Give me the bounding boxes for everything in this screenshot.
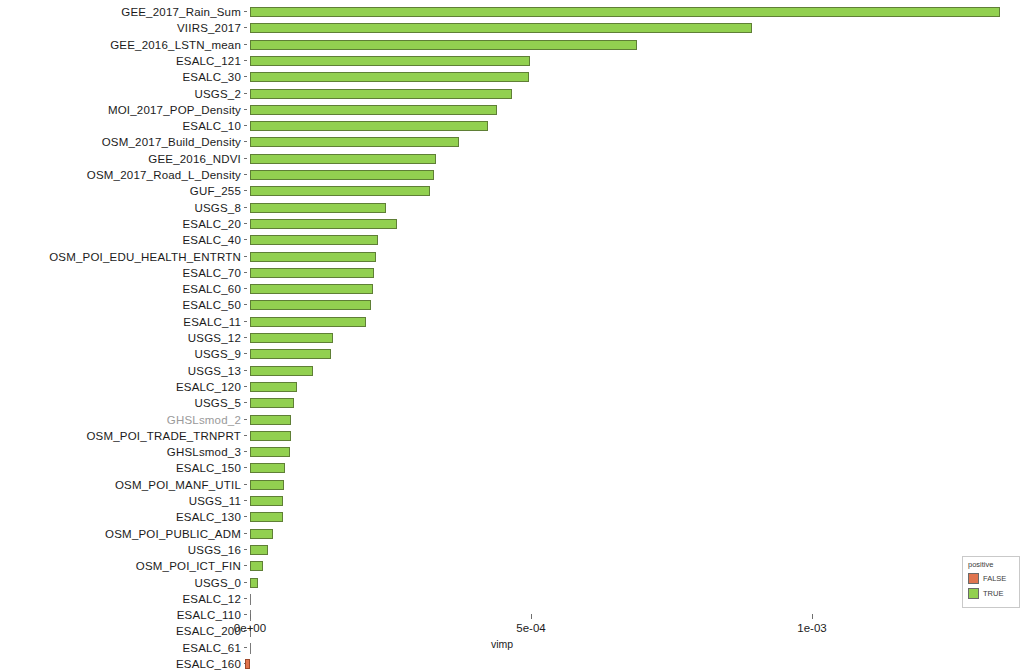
legend-item[interactable]: TRUE: [968, 587, 1014, 600]
bar-row: USGS_0: [0, 575, 1004, 591]
y-axis-tick: [244, 549, 247, 550]
y-axis-tick: [244, 174, 247, 175]
y-axis-tick: [244, 272, 247, 273]
legend: positive FALSETRUE: [962, 556, 1020, 608]
bar: [250, 284, 373, 294]
bar-row: ESALC_11: [0, 314, 1004, 330]
bar: [250, 72, 529, 82]
y-axis-tick: [244, 484, 247, 485]
y-axis-label: OSM_POI_PUBLIC_ADM: [105, 526, 241, 542]
bar-row: ESALC_50: [0, 297, 1004, 313]
y-axis-tick: [244, 353, 247, 354]
y-axis-tick: [244, 321, 247, 322]
bar: [250, 300, 371, 310]
x-axis-tick-label: 5e-04: [516, 622, 545, 634]
bar: [250, 529, 273, 539]
bar: [250, 203, 386, 213]
y-axis-tick: [244, 370, 247, 371]
y-axis-tick: [244, 27, 247, 28]
bar: [250, 333, 333, 343]
bar-row: ESALC_70: [0, 265, 1004, 281]
y-axis-tick: [244, 93, 247, 94]
y-axis-label: OSM_POI_TRADE_TRNPRT: [86, 428, 241, 444]
bar-row: ESALC_20: [0, 216, 1004, 232]
y-axis-label: GHSLsmod_2: [167, 412, 241, 428]
y-axis-label: USGS_16: [188, 542, 241, 558]
y-axis-tick: [244, 386, 247, 387]
bar: [250, 235, 378, 245]
bar: [250, 121, 488, 131]
bar: [250, 268, 374, 278]
bar: [250, 186, 430, 196]
bar: [250, 447, 290, 457]
y-axis-label: USGS_0: [194, 575, 241, 591]
bar-row: GEE_2016_NDVI: [0, 151, 1004, 167]
bar: [250, 545, 268, 555]
y-axis-label: ESALC_150: [176, 460, 241, 476]
bar-row: ESALC_150: [0, 460, 1004, 476]
bar-row: ESALC_120: [0, 379, 1004, 395]
y-axis-label: USGS_11: [189, 493, 241, 509]
bar: [250, 382, 297, 392]
y-axis-tick: [244, 288, 247, 289]
y-axis-tick: [244, 500, 247, 501]
x-axis-tick: [812, 614, 813, 619]
bar: [250, 154, 436, 164]
x-axis-tick: [531, 614, 532, 619]
y-axis-label: ESALC_121: [176, 53, 241, 69]
bar: [250, 415, 291, 425]
bar-row: OSM_POI_ICT_FIN: [0, 558, 1004, 574]
bar: [250, 7, 1000, 17]
y-axis-label: GUF_255: [190, 183, 241, 199]
y-axis-label: ESALC_20: [183, 216, 242, 232]
legend-label: TRUE: [983, 588, 1003, 599]
legend-swatch-icon: [968, 573, 979, 584]
bar: [250, 40, 637, 50]
y-axis-label: ESALC_10: [183, 118, 242, 134]
bar-row: ESALC_121: [0, 53, 1004, 69]
bar: [250, 137, 459, 147]
y-axis-tick: [244, 256, 247, 257]
y-axis-label: USGS_12: [188, 330, 241, 346]
bar-row: GHSLsmod_3: [0, 444, 1004, 460]
y-axis-tick: [244, 582, 247, 583]
bar-row: GEE_2017_Rain_Sum: [0, 4, 1004, 20]
bar-row: ESALC_130: [0, 509, 1004, 525]
y-axis-label: OSM_POI_EDU_HEALTH_ENTRTN: [49, 249, 241, 265]
bar: [250, 170, 434, 180]
bar-row: USGS_9: [0, 346, 1004, 362]
x-axis-tick-label: 1e-03: [797, 622, 826, 634]
y-axis-label: GEE_2016_NDVI: [148, 151, 241, 167]
y-axis-tick: [244, 516, 247, 517]
x-axis-tick-label: 0e+00: [234, 622, 266, 634]
bar-row: OSM_POI_EDU_HEALTH_ENTRTN: [0, 249, 1004, 265]
x-axis-title: vimp: [0, 638, 1004, 650]
y-axis-tick: [244, 304, 247, 305]
y-axis-tick: [244, 419, 247, 420]
legend-entries: FALSETRUE: [968, 572, 1014, 600]
y-axis-label: VIIRS_2017: [177, 20, 241, 36]
y-axis-label: OSM_2017_Build_Density: [102, 134, 241, 150]
bar-row: OSM_2017_Build_Density: [0, 134, 1004, 150]
y-axis-label: GHSLsmod_3: [167, 444, 241, 460]
bar-row: VIIRS_2017: [0, 20, 1004, 36]
y-axis-tick: [244, 158, 247, 159]
y-axis-label: GEE_2017_Rain_Sum: [121, 4, 241, 20]
bar-row: GEE_2016_LSTN_mean: [0, 37, 1004, 53]
y-axis-tick: [244, 109, 247, 110]
bar-row: GHSLsmod_2: [0, 412, 1004, 428]
y-axis-label: ESALC_200: [176, 623, 241, 639]
bar-row: USGS_16: [0, 542, 1004, 558]
y-axis-label: USGS_8: [194, 200, 241, 216]
legend-item[interactable]: FALSE: [968, 572, 1014, 585]
bar-row: USGS_13: [0, 363, 1004, 379]
y-axis-tick: [244, 223, 247, 224]
bar: [250, 561, 263, 571]
bar-row: OSM_2017_Road_L_Density: [0, 167, 1004, 183]
y-axis-tick: [244, 44, 247, 45]
y-axis-tick: [244, 565, 247, 566]
bar-row: USGS_8: [0, 200, 1004, 216]
bar: [250, 512, 283, 522]
y-axis-label: ESALC_30: [183, 69, 242, 85]
